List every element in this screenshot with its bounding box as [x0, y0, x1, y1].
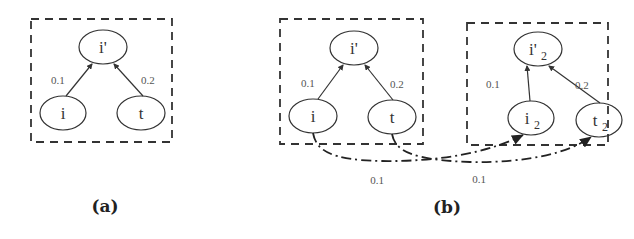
- svg-text:t: t: [593, 111, 598, 130]
- node-t-2: t 2: [576, 103, 622, 137]
- node-i: i: [289, 99, 337, 133]
- node-i-2: i 2: [508, 101, 554, 135]
- edge-weight-label: 0.1: [51, 74, 65, 86]
- edge-weight-label: 0.1: [301, 77, 315, 89]
- svg-text:2: 2: [541, 49, 547, 63]
- cross-edge-t-to-t2: [392, 134, 591, 162]
- panel-b-caption: (b): [433, 197, 461, 217]
- svg-text:i: i: [61, 104, 66, 123]
- node-i-prime: i': [79, 30, 127, 64]
- edge-i2-to-i-prime-2: [527, 66, 530, 101]
- cross-edge-i-to-i2: [313, 133, 523, 161]
- node-i-prime: i': [330, 31, 378, 65]
- panel-b-right: i' 2 i 2 t 2 0.1 0.2: [467, 23, 622, 145]
- edge-weight-label: 0.2: [141, 74, 155, 86]
- panel-b-cross-edges: 0.1 0.1: [313, 133, 591, 186]
- svg-text:i': i': [99, 38, 107, 57]
- edge-weight-label: 0.2: [575, 79, 589, 91]
- cross-edge-weight-label: 0.1: [472, 173, 486, 185]
- diagram-canvas: i' i t 0.1 0.2 (a) i' i t: [0, 0, 634, 239]
- panel-b-left: i' i t 0.1 0.2: [280, 19, 423, 144]
- panel-a-caption: (a): [91, 196, 118, 216]
- node-i-prime-2: i' 2: [514, 32, 562, 66]
- cross-edge-weight-label: 0.1: [370, 174, 384, 186]
- svg-text:i: i: [525, 109, 530, 128]
- svg-text:i': i': [350, 39, 358, 58]
- edge-t-to-i-prime: [365, 65, 393, 100]
- panel-a: i' i t 0.1 0.2 (a): [31, 19, 172, 216]
- svg-text:t: t: [390, 108, 395, 127]
- node-i: i: [40, 96, 86, 130]
- edge-weight-label: 0.1: [486, 78, 500, 90]
- edge-t-to-i-prime: [114, 64, 143, 96]
- edge-i-to-i-prime: [66, 64, 92, 96]
- node-t: t: [368, 100, 416, 134]
- svg-text:i: i: [311, 107, 316, 126]
- edge-i-to-i-prime: [318, 65, 343, 99]
- svg-text:2: 2: [602, 120, 608, 134]
- svg-text:i': i': [529, 40, 537, 59]
- svg-text:t: t: [139, 104, 144, 123]
- node-t: t: [117, 96, 165, 130]
- edge-weight-label: 0.2: [390, 78, 404, 90]
- svg-text:2: 2: [534, 118, 540, 132]
